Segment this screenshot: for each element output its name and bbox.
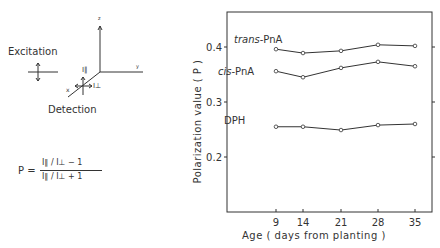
polarization-chart: 0.20.30.4914212835 Polarization value ( … xyxy=(180,0,440,248)
svg-text:21: 21 xyxy=(335,217,348,228)
series-label-cis: cis-PnA xyxy=(218,66,254,77)
svg-text:35: 35 xyxy=(409,217,422,228)
y-axis-label: y xyxy=(136,63,139,69)
svg-text:9: 9 xyxy=(273,217,279,228)
trans-suffix: -PnA xyxy=(260,34,283,45)
trans-prefix: trans xyxy=(234,34,260,45)
series-label-trans: trans-PnA xyxy=(234,34,282,45)
y-axis-title: Polarization value ( P ) xyxy=(192,57,203,187)
formula-lhs: P = xyxy=(18,165,36,176)
formula-numerator: I∥ / I⊥ − 1 xyxy=(42,158,82,167)
cis-suffix: -PnA xyxy=(232,66,255,77)
svg-text:0.3: 0.3 xyxy=(206,97,222,108)
svg-text:0.2: 0.2 xyxy=(206,152,222,163)
cis-prefix: cis xyxy=(218,66,232,77)
x-axis-label: x xyxy=(66,86,70,93)
z-axis-label: z xyxy=(98,15,101,21)
detection-label: Detection xyxy=(48,104,97,115)
i-perp-label: I⊥ xyxy=(93,82,101,90)
polarization-formula: P = I∥ / I⊥ − 1 I∥ / I⊥ + 1 xyxy=(18,158,98,198)
formula-denominator: I∥ / I⊥ + 1 xyxy=(42,172,82,181)
excitation-label: Excitation xyxy=(8,46,58,57)
i-parallel-label: I∥ xyxy=(82,66,88,74)
svg-text:28: 28 xyxy=(372,217,385,228)
svg-text:14: 14 xyxy=(297,217,310,228)
chart-plot-area: 0.20.30.4914212835 xyxy=(180,0,440,248)
geometry-diagram: Excitation Detection z y x I∥ I⊥ xyxy=(0,0,180,140)
fraction-bar xyxy=(40,170,102,171)
svg-text:0.4: 0.4 xyxy=(206,42,222,53)
series-label-dph: DPH xyxy=(224,115,245,126)
x-axis-title: Age ( days from planting ) xyxy=(242,230,386,241)
axes-diagram-icon xyxy=(0,0,180,140)
